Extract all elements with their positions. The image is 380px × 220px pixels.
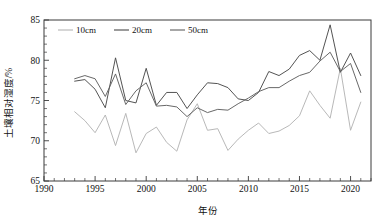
- line-chart: 6570758085 1990199520002005201020152020 …: [0, 0, 380, 220]
- x-tick-label: 2010: [239, 184, 258, 194]
- legend-label-20cm: 20cm: [132, 25, 152, 35]
- plot-frame: [44, 20, 371, 181]
- x-tick-label: 2020: [341, 184, 360, 194]
- data-series-group: [75, 25, 361, 153]
- x-tick-label: 2005: [188, 184, 207, 194]
- y-tick-label: 75: [31, 96, 41, 106]
- y-tick-label: 80: [31, 56, 41, 66]
- x-tick-label: 1995: [86, 184, 105, 194]
- y-axis-title: 土壤相对湿度/%: [3, 68, 14, 139]
- x-tick-label: 2000: [137, 184, 156, 194]
- x-axis-title: 年份: [198, 205, 218, 216]
- x-axis-ticks: [44, 176, 371, 181]
- top-text-fragment: [0, 0, 380, 7]
- chart-container: 6570758085 1990199520002005201020152020 …: [0, 0, 380, 220]
- y-tick-label: 70: [31, 136, 41, 146]
- y-axis-ticks: [44, 20, 49, 181]
- series-line-20cm: [75, 25, 361, 109]
- x-tick-label: 1990: [35, 184, 54, 194]
- x-axis-tick-labels: 1990199520002005201020152020: [35, 184, 361, 194]
- legend-label-50cm: 50cm: [188, 25, 208, 35]
- legend-label-10cm: 10cm: [76, 25, 96, 35]
- y-axis-tick-labels: 6570758085: [31, 15, 41, 186]
- x-tick-label: 2015: [290, 184, 309, 194]
- chart-legend: 10cm20cm50cm: [58, 25, 208, 35]
- series-line-50cm: [75, 52, 361, 116]
- y-tick-label: 85: [31, 15, 41, 25]
